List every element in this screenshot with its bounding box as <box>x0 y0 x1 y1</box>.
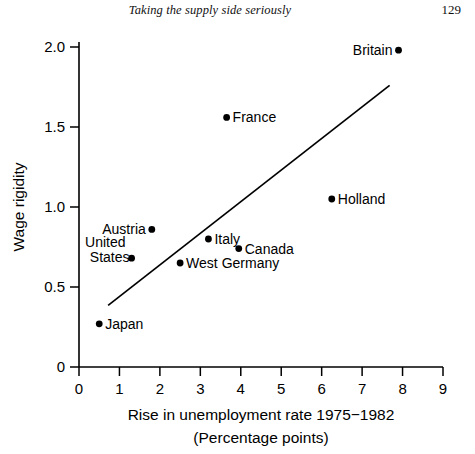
y-tick-label: 2.0 <box>44 38 65 55</box>
data-point-label: Italy <box>214 231 240 247</box>
data-point: UnitedStates <box>85 234 135 265</box>
page-number: 129 <box>442 2 462 18</box>
x-tick-label: 5 <box>277 380 285 397</box>
x-tick-label: 4 <box>237 380 245 397</box>
x-axis-ticks: 0123456789 <box>75 367 447 397</box>
data-point-marker <box>328 196 335 203</box>
x-tick-label: 7 <box>358 380 366 397</box>
data-point-label: Japan <box>105 316 143 332</box>
y-axis-ticks: 00.51.01.52.0 <box>44 38 79 375</box>
data-point-marker <box>96 320 103 327</box>
x-tick-label: 0 <box>75 380 83 397</box>
x-tick-label: 8 <box>398 380 406 397</box>
y-tick-label: 1.5 <box>44 118 65 135</box>
plot-canvas: 00.51.01.52.0 0123456789 BritainFranceHo… <box>0 22 475 454</box>
data-point-label: United <box>85 234 125 250</box>
data-point: Japan <box>96 316 144 332</box>
x-tick-label: 3 <box>196 380 204 397</box>
data-point-label: States <box>90 249 130 265</box>
data-point: West Germany <box>177 255 280 271</box>
y-tick-label: 1.0 <box>44 198 65 215</box>
scatter-plot-figure: 00.51.01.52.0 0123456789 BritainFranceHo… <box>0 22 475 454</box>
data-point-marker <box>223 114 230 121</box>
data-point: Britain <box>353 42 402 58</box>
x-tick-label: 1 <box>115 380 123 397</box>
y-tick-label: 0 <box>57 358 65 375</box>
data-point: Italy <box>205 231 240 247</box>
x-axis-title-line2: (Percentage points) <box>193 429 328 446</box>
y-tick-label: 0.5 <box>44 278 65 295</box>
data-point: Holland <box>328 191 385 207</box>
running-head: Taking the supply side seriously <box>0 3 420 18</box>
data-point-label: Holland <box>338 191 385 207</box>
data-point-marker <box>235 245 242 252</box>
data-point-marker <box>395 47 402 54</box>
x-tick-label: 6 <box>317 380 325 397</box>
data-point: France <box>223 109 276 125</box>
data-point-label: France <box>233 109 277 125</box>
data-points: BritainFranceHollandAustriaItalyCanadaUn… <box>85 42 402 332</box>
data-point-marker <box>148 226 155 233</box>
x-tick-label: 9 <box>439 380 447 397</box>
x-axis-title-line1: Rise in unemployment rate 1975−1982 <box>128 406 395 423</box>
data-point-label: Britain <box>353 42 393 58</box>
y-axis-title: Wage rigidity <box>10 162 27 251</box>
data-point-marker <box>205 236 212 243</box>
page-header: Taking the supply side seriously 129 <box>0 0 475 22</box>
x-tick-label: 2 <box>156 380 164 397</box>
data-point-label: West Germany <box>186 255 279 271</box>
data-point-marker <box>177 260 184 267</box>
